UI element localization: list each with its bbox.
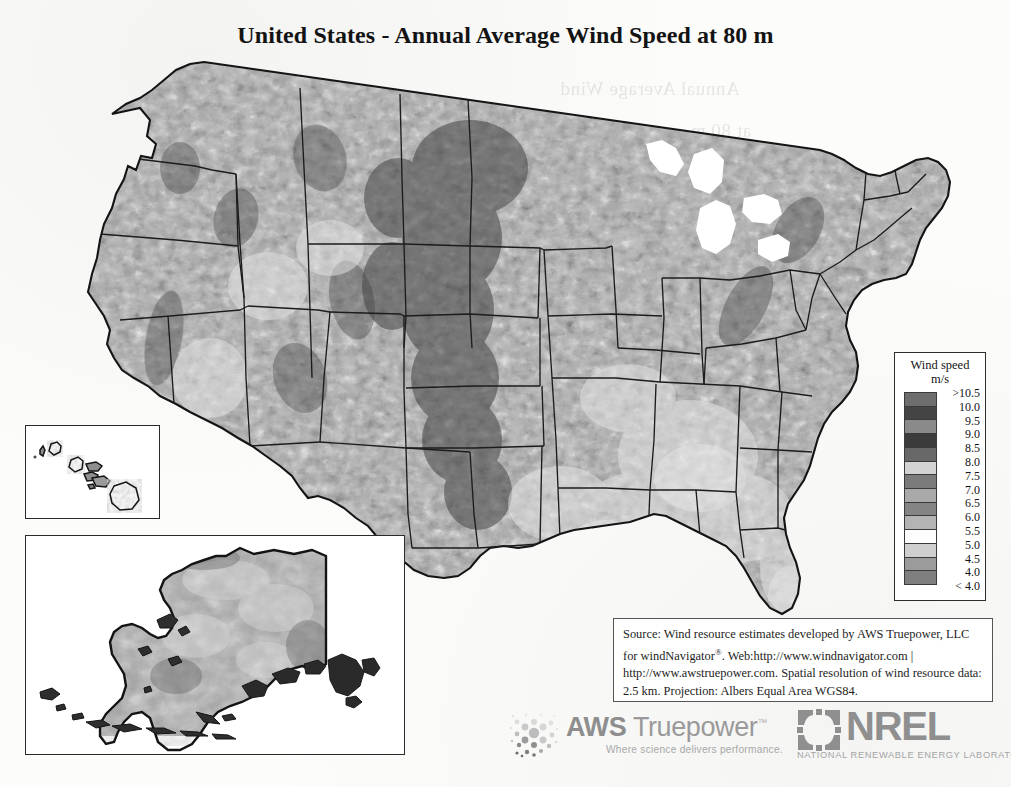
source-line-1: Source: Wind resource estimates develope… [623,627,943,641]
legend-swatch-13 [905,571,936,584]
source-citation-box: Source: Wind resource estimates develope… [613,618,993,702]
legend-label-3: 9.0 [940,428,984,442]
aws-word-light: Truepower [626,712,757,742]
legend-label-14: < 4.0 [940,580,984,594]
legend-swatch-10 [905,530,936,544]
legend-labels: >10.510.09.59.08.58.07.57.06.56.05.55.04… [940,387,984,594]
alaska-inset [25,535,405,755]
legend-label-7: 7.0 [940,484,984,498]
nrel-logo: NREL NATIONAL RENEWABLE ENERGY LABORATOR… [796,706,1001,764]
legend-label-4: 8.5 [940,442,984,456]
legend-swatch-0 [905,393,936,407]
legend-swatch-8 [905,503,936,517]
legend-label-13: 4.0 [940,566,984,580]
legend-swatch-5 [905,462,936,476]
legend-swatch-1 [905,407,936,421]
registered-mark: ® [715,647,722,657]
logo-row: AWS Truepower™ Where science delivers pe… [500,704,1000,766]
legend-swatch-7 [905,489,936,503]
legend-label-12: 4.5 [940,553,984,567]
legend-title-line1: Wind speed [895,358,985,372]
legend-swatch-2 [905,420,936,434]
hawaii-islands [34,442,139,510]
wind-raster-alaska [86,536,346,736]
aws-word-bold: AWS [566,712,626,742]
legend-label-5: 8.0 [940,456,984,470]
source-line-3: http://www.awstruepower.com. Spatial res… [623,666,955,680]
legend-label-1: 10.0 [940,401,984,415]
legend-title-line2: m/s [895,372,985,386]
legend-label-10: 5.5 [940,525,984,539]
legend-label-8: 6.5 [940,497,984,511]
hawaii-inset [25,425,160,519]
legend-swatch-12 [905,558,936,572]
aws-wordmark: AWS Truepower™ [566,712,767,743]
legend-label-11: 5.0 [940,539,984,553]
legend-swatch-6 [905,475,936,489]
nrel-emblem-icon [796,708,842,752]
source-line-2b: . Web:http://www.windnavigator.com | [722,649,913,663]
legend-label-2: 9.5 [940,415,984,429]
aws-trademark: ™ [757,717,767,728]
nrel-subtitle: NATIONAL RENEWABLE ENERGY LABORATORY [797,750,1011,760]
legend-panel: Wind speed m/s >10.510.09.59.08.58.07.57… [894,352,986,601]
legend-swatch-9 [905,516,936,530]
legend-label-6: 7.5 [940,470,984,484]
aws-swirl-icon [508,710,560,758]
legend-swatch-4 [905,448,936,462]
nrel-wordmark: NREL [846,704,950,749]
legend-colorbar [904,392,937,585]
aws-tagline: Where science delivers performance. [606,744,783,755]
map-title: United States - Annual Average Wind Spee… [0,22,1011,49]
legend-swatch-3 [905,434,936,448]
scanned-page: Annual Average Wind at 80 m wind resourc… [0,0,1011,787]
legend-label-0: >10.5 [940,387,984,401]
legend-label-9: 6.0 [940,511,984,525]
legend-swatch-11 [905,544,936,558]
aws-truepower-logo: AWS Truepower™ Where science delivers pe… [508,706,793,764]
